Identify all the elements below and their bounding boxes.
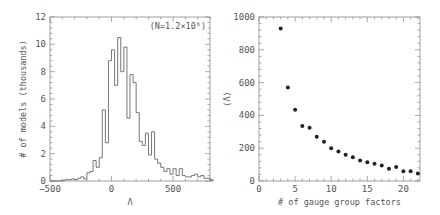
data-point [300,124,304,128]
data-point [373,162,377,166]
y-tick-label: 4 [41,121,46,131]
data-point [308,126,312,130]
y-tick-label: 1000 [233,12,255,22]
sample-size-annotation: (N=1.2×10⁶) [150,21,206,31]
data-point [394,165,398,169]
chart-histogram: −5000500024681012Λ# of models (thousands… [18,12,213,207]
data-point [329,146,333,150]
y-tick-label: 0 [250,176,255,186]
data-point [380,163,384,167]
data-point [387,167,391,171]
data-point [365,160,369,164]
y-tick-label: 0 [41,176,46,186]
x-tick-label: 500 [165,184,181,194]
x-axis-label: Λ [127,197,132,207]
y-tick-label: 200 [239,143,255,153]
y-axis-label: # of models (thousands) [18,40,28,158]
figure: −5000500024681012Λ# of models (thousands… [0,0,440,215]
x-tick-label: 0 [256,184,261,194]
y-tick-label: 8 [41,67,46,77]
y-tick-label: 2 [41,149,46,159]
data-point [279,26,283,30]
data-point [344,153,348,157]
plot-frame [259,17,420,181]
y-tick-label: 12 [35,12,46,22]
y-axis-label: ⟨Λ⟩ [222,91,232,106]
y-tick-label: 6 [41,94,46,104]
data-point [409,169,413,173]
x-tick-label: 15 [362,184,373,194]
data-point [358,159,362,163]
histogram-step-line [50,38,213,182]
data-point [416,172,420,176]
y-tick-label: 600 [239,78,255,88]
data-point [286,86,290,90]
x-axis-label: # of gauge group factors [278,197,401,207]
x-tick-label: 0 [109,184,114,194]
data-point [315,135,319,139]
data-point [401,169,405,173]
y-tick-label: 400 [239,110,255,120]
data-point [351,155,355,159]
y-tick-label: 800 [239,45,255,55]
x-tick-label: 20 [398,184,409,194]
data-point [322,140,326,144]
x-tick-label: 5 [292,184,297,194]
data-point [293,108,297,112]
y-tick-label: 10 [35,39,46,49]
data-point [336,149,340,153]
chart-scatter: 0510152002004006008001000# of gauge grou… [222,12,420,207]
x-tick-label: 10 [326,184,337,194]
